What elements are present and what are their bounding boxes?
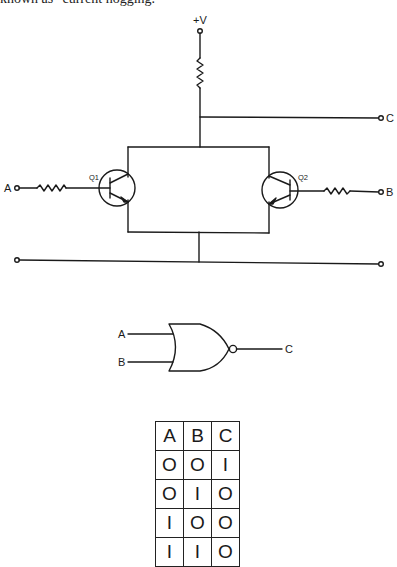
header-cell-a: A xyxy=(156,422,184,451)
gate-input-label-a: A xyxy=(118,328,126,340)
transistor-q2-icon xyxy=(262,172,298,208)
cell-c: O xyxy=(212,480,240,509)
cell-c: O xyxy=(212,509,240,538)
cell-c: O xyxy=(212,538,240,567)
header-cell-c: C xyxy=(212,422,240,451)
transistor-label-q1: Q1 xyxy=(89,173,99,182)
gate-output-label-c: C xyxy=(285,343,293,355)
supply-label: +V xyxy=(193,14,207,26)
collector-resistor-icon xyxy=(197,58,203,88)
cell-a: O xyxy=(156,451,184,480)
base-resistor-a-icon xyxy=(37,185,66,191)
base-resistor-b-icon xyxy=(324,188,350,194)
truth-table-row: I O O xyxy=(156,509,240,538)
header-cell-b: B xyxy=(184,422,212,451)
cell-b: O xyxy=(184,509,212,538)
input-terminal-b xyxy=(379,190,384,195)
cell-a: I xyxy=(156,509,184,538)
output-terminal-c xyxy=(379,116,384,121)
transistor-label-q2: Q2 xyxy=(298,173,308,182)
truth-table-row: I I O xyxy=(156,538,240,567)
cell-a: O xyxy=(156,480,184,509)
cell-b: O xyxy=(184,451,212,480)
nor-gate-icon xyxy=(128,324,282,371)
truth-table-header-row: A B C xyxy=(156,422,240,451)
input-label-b: B xyxy=(386,186,393,198)
cell-a: I xyxy=(156,538,184,567)
input-label-a: A xyxy=(4,182,12,194)
truth-table: A B C O O I O I O I O O I I O xyxy=(155,421,240,567)
cell-b: I xyxy=(184,480,212,509)
cell-b: I xyxy=(184,538,212,567)
truth-table-row: O O I xyxy=(156,451,240,480)
cell-c: I xyxy=(212,451,240,480)
gate-input-label-b: B xyxy=(118,356,125,368)
ground-terminal-right xyxy=(379,262,384,267)
output-label-c: C xyxy=(386,112,394,124)
truth-table-row: O I O xyxy=(156,480,240,509)
